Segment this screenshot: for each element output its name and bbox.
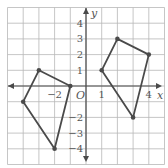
vertex-point — [147, 52, 152, 57]
y-tick-label: −4 — [68, 143, 83, 154]
y-tick-label: −2 — [68, 112, 83, 123]
vertex-point — [37, 68, 42, 73]
origin-label: O — [76, 89, 85, 102]
vertex-point — [52, 147, 57, 152]
y-tick-label: 4 — [77, 18, 83, 29]
y-axis-label: y — [90, 7, 98, 20]
right-quadrilateral — [99, 37, 151, 120]
y-axis-arrow-down-icon — [83, 156, 89, 162]
y-tick-label: −3 — [68, 128, 83, 139]
vertex-point — [99, 68, 104, 73]
y-tick-label: 3 — [77, 33, 83, 44]
y-tick-label: 1 — [77, 65, 83, 76]
vertex-point — [68, 84, 73, 89]
vertex-point — [21, 99, 26, 104]
x-axis-label: x — [157, 89, 164, 102]
coordinate-plane: −2144321−2−3−4 x y O — [0, 0, 168, 168]
x-tick-label: 4 — [146, 89, 152, 100]
vertex-point — [131, 115, 136, 120]
right-quadrilateral-outline — [102, 39, 149, 118]
left-quadrilateral-outline — [23, 70, 70, 149]
x-tick-label: −2 — [47, 89, 62, 100]
left-quadrilateral — [21, 68, 73, 151]
vertex-point — [115, 37, 120, 42]
y-tick-label: 2 — [77, 49, 83, 60]
x-axis-arrow-left-icon — [8, 83, 14, 89]
x-tick-label: 1 — [99, 89, 105, 100]
y-axis-arrow-up-icon — [83, 8, 89, 14]
